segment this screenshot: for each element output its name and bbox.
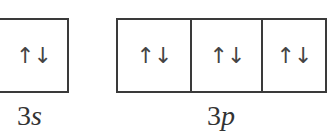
spin-pair-arrows-icon: ↑↓	[210, 43, 245, 68]
subshell-label-3s: 3s	[17, 100, 42, 132]
orbital-3s-1: ↑↓	[0, 20, 67, 91]
spin-pair-arrows-icon: ↑↓	[277, 43, 312, 68]
orbital-3p-3: ↑↓	[263, 20, 325, 91]
subshell-letter: p	[221, 100, 235, 131]
spin-pair-arrows-icon: ↑↓	[16, 43, 51, 68]
subshell-letter: s	[31, 100, 42, 131]
subshell-label-3p: 3p	[207, 100, 235, 132]
orbital-3p-1: ↑↓	[118, 20, 190, 91]
principal-number: 3	[207, 100, 221, 131]
orbital-3p-2: ↑↓	[192, 20, 262, 91]
spin-pair-arrows-icon: ↑↓	[137, 43, 172, 68]
orbital-box-3p: ↑↓ ↑↓ ↑↓	[116, 18, 327, 93]
orbital-box-3s: ↑↓	[0, 18, 69, 93]
principal-number: 3	[17, 100, 31, 131]
